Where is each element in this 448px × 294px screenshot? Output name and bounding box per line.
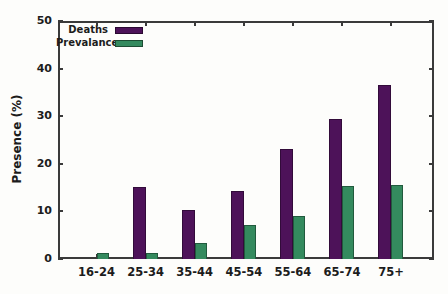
x-tick-mark-top <box>390 21 392 26</box>
legend: DeathsPrevalance <box>56 25 143 48</box>
y-tick-mark-left <box>58 68 63 70</box>
x-tick-label: 35-44 <box>171 266 219 278</box>
bar-deaths-25-34 <box>133 187 146 259</box>
bar-prevalance-55-64 <box>293 216 305 259</box>
y-tick-mark-right <box>429 115 434 117</box>
legend-entry-deaths: Deaths <box>56 25 143 35</box>
bar-deaths-35-44 <box>182 210 195 259</box>
bar-deaths-65-74 <box>329 119 342 259</box>
y-tick-mark-right <box>429 20 434 22</box>
y-tick-mark-left <box>58 163 63 165</box>
y-tick-mark-right <box>429 210 434 212</box>
x-tick-label: 75+ <box>367 266 415 278</box>
y-tick-label: 10 <box>26 205 52 216</box>
bar-prevalance-75+ <box>391 185 403 259</box>
bar-deaths-75+ <box>378 85 391 259</box>
x-tick-label: 55-64 <box>269 266 317 278</box>
y-tick-mark-left <box>58 258 63 260</box>
bar-prevalance-45-54 <box>244 225 256 259</box>
y-tick-label: 0 <box>26 253 52 264</box>
x-tick-label: 16-24 <box>73 266 121 278</box>
x-tick-mark-top <box>96 21 98 26</box>
x-tick-mark-top <box>341 21 343 26</box>
y-tick-label: 40 <box>26 63 52 74</box>
y-tick-mark-left <box>58 115 63 117</box>
y-tick-mark-left <box>58 20 63 22</box>
bar-prevalance-35-44 <box>195 243 207 259</box>
bar-deaths-45-54 <box>231 191 244 259</box>
y-axis-title: Presence (%) <box>10 79 24 199</box>
x-tick-mark-top <box>145 21 147 26</box>
y-tick-mark-left <box>58 210 63 212</box>
bar-prevalance-16-24 <box>97 253 109 259</box>
legend-label: Prevalance <box>56 38 108 48</box>
legend-swatch <box>115 27 143 34</box>
x-tick-mark-top <box>292 21 294 26</box>
x-tick-label: 25-34 <box>122 266 170 278</box>
legend-swatch <box>115 40 143 47</box>
legend-label: Deaths <box>56 25 108 35</box>
legend-entry-prevalance: Prevalance <box>56 38 143 48</box>
x-tick-label: 65-74 <box>318 266 366 278</box>
y-tick-mark-right <box>429 258 434 260</box>
x-tick-mark-top <box>194 21 196 26</box>
bar-prevalance-25-34 <box>146 253 158 259</box>
y-tick-mark-right <box>429 68 434 70</box>
y-tick-label: 50 <box>26 15 52 26</box>
bar-deaths-55-64 <box>280 149 293 259</box>
bar-chart-figure: Presence (%) DeathsPrevalance 0102030405… <box>0 0 448 294</box>
bar-prevalance-65-74 <box>342 186 354 259</box>
y-tick-mark-right <box>429 163 434 165</box>
y-tick-label: 20 <box>26 158 52 169</box>
y-tick-label: 30 <box>26 110 52 121</box>
x-tick-mark-top <box>243 21 245 26</box>
x-tick-label: 45-54 <box>220 266 268 278</box>
